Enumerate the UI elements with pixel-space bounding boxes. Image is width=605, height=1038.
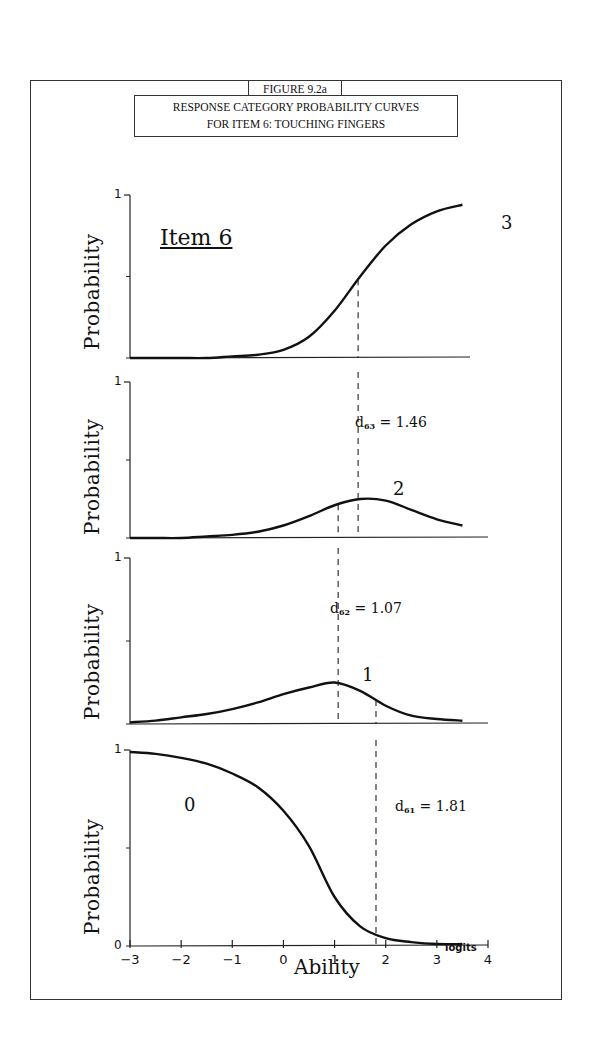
d62-annotation: d62 = 1.07 [330,600,402,617]
x-tick-label: −2 [166,952,196,967]
x-tick-label: 3 [422,952,452,967]
x-axis-line [130,723,488,724]
x-axis-label: Ability [294,955,360,979]
y-tick-zero-panel-0: 0 [114,938,122,952]
x-tick-label: −3 [115,952,145,967]
probability-curve-category-2 [130,499,462,538]
y-axis-label-panel-0: Probability [80,818,104,935]
y-tick-one-panel-0: 1 [114,742,122,756]
category-label-1: 1 [362,664,373,685]
d63-annotation: d63 = 1.46 [355,414,427,431]
x-tick-label: 2 [371,952,401,967]
y-tick-one-panel-3: 1 [114,187,122,201]
y-axis-label-panel-2: Probability [80,418,104,535]
y-tick-one-panel-1: 1 [114,550,122,564]
x-axis-line [130,945,488,946]
x-tick-label: −1 [217,952,247,967]
probability-curve-category-1 [130,682,462,722]
y-axis-label-panel-1: Probability [80,603,104,720]
category-label-2: 2 [393,478,404,499]
item-title: Item 6 [160,225,232,250]
category-label-3: 3 [501,212,512,233]
y-axis-label-panel-3: Probability [80,233,104,350]
y-tick-one-panel-2: 1 [114,374,122,388]
probability-curve-category-0 [130,752,462,944]
x-tick-label: 4 [473,952,503,967]
d61-annotation: d61 = 1.81 [395,798,467,815]
x-axis-unit: logits [445,942,477,953]
category-label-0: 0 [184,794,195,815]
